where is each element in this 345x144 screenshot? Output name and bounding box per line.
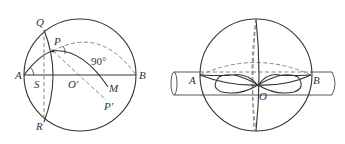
cylinder-end-left <box>171 72 177 95</box>
figure-right-sphere-cylinder: A B O <box>171 19 335 131</box>
label-b: B <box>139 69 146 81</box>
label-r: R <box>35 120 43 132</box>
meridian-front <box>256 19 259 131</box>
label-o: O <box>259 90 267 102</box>
arc-qr <box>44 30 53 122</box>
label-s: S <box>34 78 40 90</box>
meridian-back-1 <box>252 19 256 131</box>
label-b-right: B <box>313 74 320 86</box>
label-m: M <box>108 82 119 94</box>
label-p-prime: P' <box>103 100 114 112</box>
label-a-right: A <box>188 74 196 86</box>
label-a: A <box>14 69 22 81</box>
label-p: P <box>53 35 61 47</box>
label-o-prime: O' <box>68 78 79 90</box>
equator-back <box>200 63 311 76</box>
point-p <box>52 50 55 53</box>
cylinder-end-right <box>332 72 335 95</box>
label-angle-90: 90° <box>91 55 106 67</box>
figure-eight-left <box>200 74 258 93</box>
angle-mark-a <box>30 67 34 75</box>
diagram-canvas: Q P A S O' 90° M B P' R A B O <box>0 0 345 144</box>
figure-left-sphere-section: Q P A S O' 90° M B P' R <box>14 16 146 132</box>
label-q: Q <box>36 16 44 28</box>
meridian-back-2 <box>253 19 256 131</box>
angle-mark-p <box>63 46 65 54</box>
